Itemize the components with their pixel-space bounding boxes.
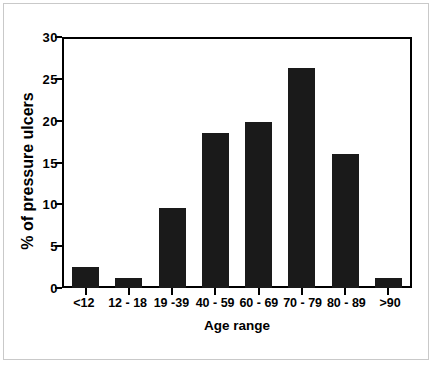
bar-60-69 — [245, 122, 272, 288]
x-axis-label: Age range — [62, 318, 412, 333]
x-tick-label-4: 60 - 69 — [237, 296, 281, 310]
bar-40-59 — [202, 133, 229, 288]
y-tick-mark-30 — [55, 36, 62, 38]
bar-70-79 — [288, 68, 315, 288]
y-tick-label-30: 30 — [24, 30, 58, 45]
y-tick-mark-20 — [55, 120, 62, 122]
bar-19-39 — [159, 208, 186, 288]
x-tick-mark-4 — [258, 288, 260, 295]
x-tick-mark-5 — [301, 288, 303, 295]
x-tick-slot-1 — [107, 288, 150, 295]
x-tick-label-7: >90 — [368, 296, 412, 310]
y-tick-label-25: 25 — [24, 71, 58, 86]
y-tick-label-0: 0 — [24, 281, 58, 296]
y-tick-label-5: 5 — [24, 239, 58, 254]
y-tick-mark-10 — [55, 203, 62, 205]
y-tick-mark-25 — [55, 78, 62, 80]
bar-slot-0 — [64, 39, 107, 288]
bar-slot-5 — [280, 39, 323, 288]
x-tick-slot-5 — [280, 288, 323, 295]
y-tick-label-15: 15 — [24, 155, 58, 170]
bar-80-89 — [332, 154, 359, 288]
x-tick-label-1: 12 - 18 — [106, 296, 150, 310]
x-axis-tick-labels: <12 12 - 18 19 -39 40 - 59 60 - 69 70 - … — [62, 296, 412, 310]
x-tick-slot-2 — [151, 288, 194, 295]
bar-slot-1 — [107, 39, 150, 288]
y-tick-label-20: 20 — [24, 113, 58, 128]
bar-slot-4 — [237, 39, 280, 288]
y-tick-mark-5 — [55, 245, 62, 247]
x-tick-label-5: 70 - 79 — [281, 296, 325, 310]
x-tick-slot-6 — [324, 288, 367, 295]
x-tick-label-2: 19 -39 — [150, 296, 194, 310]
x-tick-slot-3 — [194, 288, 237, 295]
x-axis-ticks — [64, 288, 410, 295]
x-tick-mark-1 — [128, 288, 130, 295]
x-tick-label-6: 80 - 89 — [325, 296, 369, 310]
y-tick-mark-15 — [55, 162, 62, 164]
x-tick-mark-0 — [85, 288, 87, 295]
bar-12-18 — [115, 278, 142, 288]
x-tick-mark-7 — [387, 288, 389, 295]
x-tick-slot-7 — [367, 288, 410, 295]
y-axis-label: % of pressure ulcers — [19, 51, 37, 291]
y-tick-mark-0 — [55, 287, 62, 289]
bar-slot-2 — [151, 39, 194, 288]
bar-lt12 — [72, 267, 99, 288]
x-tick-mark-2 — [171, 288, 173, 295]
x-tick-label-3: 40 - 59 — [193, 296, 237, 310]
x-tick-label-0: <12 — [62, 296, 106, 310]
bar-series — [64, 39, 410, 288]
x-tick-slot-4 — [237, 288, 280, 295]
x-tick-mark-3 — [214, 288, 216, 295]
x-tick-slot-0 — [64, 288, 107, 295]
x-tick-mark-6 — [344, 288, 346, 295]
bar-slot-7 — [367, 39, 410, 288]
y-tick-label-10: 10 — [24, 197, 58, 212]
bar-gt90 — [375, 278, 402, 288]
bar-slot-6 — [324, 39, 367, 288]
chart-figure: % of pressure ulcers 0 5 10 15 20 25 30 — [0, 0, 433, 366]
bar-slot-3 — [194, 39, 237, 288]
